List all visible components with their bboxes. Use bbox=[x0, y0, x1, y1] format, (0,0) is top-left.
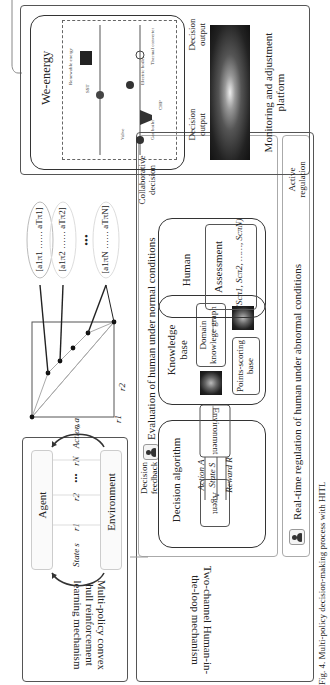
collaborative-decision-label: Collaborative decision bbox=[138, 150, 158, 210]
figure-caption: Fig. 4. Multi-policy decision-making pro… bbox=[318, 405, 328, 685]
monitoring-platform-image bbox=[210, 25, 250, 160]
active-regulation-label: Active regulation bbox=[288, 152, 308, 207]
decision-output-2: Decision output bbox=[188, 12, 208, 57]
decision-output-1: Decision output bbox=[188, 102, 208, 147]
platform-title: Monitoring and adjustment platform bbox=[262, 30, 286, 155]
figure: Multi-policy convex hull reinforcement l… bbox=[0, 0, 330, 685]
